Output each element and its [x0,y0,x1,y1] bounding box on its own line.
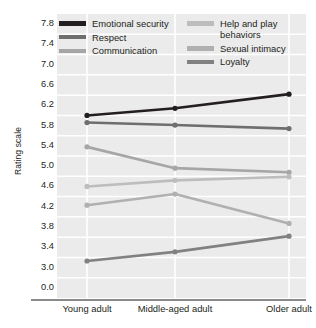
data-point [172,249,177,254]
legend-swatch-icon [59,21,86,25]
series-line [87,123,289,129]
legend-item[interactable]: Respect [59,32,187,43]
legend-column-left: Emotional securityRespectCommunication [59,18,187,80]
y-axis-tick-label: 7.0 [41,60,54,69]
line-chart: Rating scale 7.87.47.06.66.25.85.45.04.6… [0,0,316,328]
y-axis-tick-label: 6.6 [41,80,54,89]
data-point [286,174,291,179]
data-point [286,126,291,131]
legend-column-right: Help and play behaviorsSexual intimacyLo… [187,18,309,80]
legend-label: Respect [92,32,126,43]
series-line [87,94,289,115]
y-axis-tick-label: 6.2 [41,101,54,110]
legend-swatch-icon [187,60,214,64]
y-axis-tick-label: 4.2 [41,202,54,211]
data-point [286,170,291,175]
legend-label: Communication [92,45,157,56]
data-point [172,178,177,183]
data-point [286,92,291,97]
legend-swatch-icon [187,46,214,50]
data-point [286,234,291,239]
x-axis-tick-label: Middle-aged adult [138,303,213,314]
y-axis-tick-label: 3.4 [41,243,54,252]
x-axis-tick-label: Older adult [266,303,312,314]
legend-label: Loyalty [220,56,250,67]
y-axis-tick-label: 5.4 [41,141,54,150]
y-axis-tick-label: 5.0 [41,161,54,170]
data-point [84,184,89,189]
data-point [84,113,89,118]
legend-item[interactable]: Emotional security [59,18,187,29]
series-loyalty [84,234,291,264]
x-axis-tick-label: Young adult [62,303,111,314]
data-point [84,203,89,208]
data-point [286,221,291,226]
data-point [84,258,89,263]
series-line [87,177,289,187]
data-point [172,122,177,127]
legend-swatch-icon [59,49,86,53]
y-axis-title: Rating scale [13,101,23,201]
data-point [172,106,177,111]
y-axis-tick-label: 5.8 [41,121,54,130]
y-axis-tick-label: 7.8 [41,19,54,28]
data-point [172,166,177,171]
legend-swatch-icon [187,21,214,25]
y-axis-tick-label: 3.8 [41,222,54,231]
data-point [84,144,89,149]
data-point [84,120,89,125]
legend-label: Emotional security [92,18,169,29]
legend-item[interactable]: Loyalty [187,56,309,67]
legend-item[interactable]: Sexual intimacy [187,43,309,54]
legend-swatch-icon [59,35,86,39]
y-axis-tick-label: 0.0 [41,283,54,292]
x-axis-rule [31,299,306,301]
data-point [172,191,177,196]
legend: Emotional securityRespectCommunication H… [59,18,309,80]
y-axis-tick-labels: 7.87.47.06.66.25.85.45.04.64.23.83.43.00… [28,0,54,300]
series-respect [84,120,291,131]
legend-label: Help and play behaviors [220,18,309,40]
y-axis-tick-label: 7.4 [41,40,54,49]
legend-item[interactable]: Communication [59,45,187,56]
series-communication [84,144,291,175]
y-axis-tick-label: 4.6 [41,182,54,191]
series-line [87,147,289,172]
x-axis-tick-labels: Young adultMiddle-aged adultOlder adult [0,303,316,323]
legend-label: Sexual intimacy [220,43,286,54]
y-axis-tick-label: 3.0 [41,263,54,272]
series-line [87,194,289,223]
legend-item[interactable]: Help and play behaviors [187,18,309,40]
